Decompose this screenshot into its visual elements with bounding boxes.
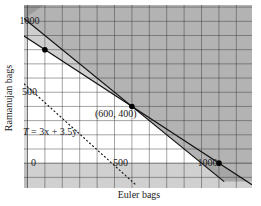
- region-negative-y: [24, 163, 252, 188]
- x-tick-label: 0: [31, 157, 36, 168]
- feasibility-regions: [24, 5, 252, 188]
- x-axis-label: Euler bags: [118, 189, 161, 200]
- chart: 050010005001000 Euler bags Ramanujan bag…: [0, 0, 261, 206]
- optimum-point-label: (600, 400): [95, 108, 137, 120]
- vertex-point: [42, 47, 48, 53]
- x-tick-label: 500: [113, 157, 128, 168]
- y-tick-label: 500: [22, 86, 37, 97]
- objective-label: T = 3x + 3.5y: [23, 126, 77, 137]
- y-axis-label: Ramanujan bags: [3, 65, 14, 131]
- x-tick-label: 1000: [198, 157, 218, 168]
- y-tick-label: 1000: [19, 15, 39, 26]
